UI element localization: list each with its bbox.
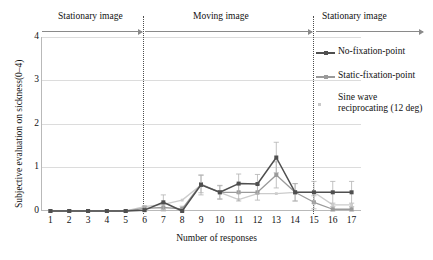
data-point xyxy=(181,199,184,202)
legend-square-icon xyxy=(324,51,328,55)
data-point xyxy=(350,190,354,194)
legend-label: Static-fixation-point xyxy=(338,70,415,80)
legend-label: Sine wave reciprocating (12 deg) xyxy=(338,92,422,114)
legend-label: No-fixation-point xyxy=(338,46,405,56)
data-point xyxy=(48,209,52,213)
data-point xyxy=(350,204,353,207)
data-point xyxy=(86,209,90,213)
data-point xyxy=(331,207,335,211)
series-1 xyxy=(48,142,354,213)
data-point xyxy=(331,190,335,194)
x-tick-17: 17 xyxy=(340,215,364,225)
data-point xyxy=(331,204,334,207)
data-point xyxy=(275,192,278,195)
data-point xyxy=(350,207,354,211)
data-point xyxy=(67,209,71,213)
legend-square-icon xyxy=(324,75,328,79)
x-axis-label: Number of responses xyxy=(0,233,433,243)
data-point xyxy=(274,173,278,177)
data-point xyxy=(218,190,222,194)
data-point xyxy=(312,190,316,194)
legend-label-line2: reciprocating (12 deg) xyxy=(338,103,422,113)
data-point xyxy=(199,183,203,187)
data-point xyxy=(293,190,297,194)
legend-label-line1: Sine wave xyxy=(338,92,377,102)
data-point xyxy=(124,209,128,213)
data-point xyxy=(143,208,147,212)
data-point xyxy=(237,182,241,186)
chart-container: Stationary image Moving image Stationary… xyxy=(0,0,433,260)
data-point xyxy=(274,155,278,159)
data-point xyxy=(180,209,184,213)
legend-dot-icon xyxy=(318,103,321,106)
data-point xyxy=(255,182,259,186)
data-point xyxy=(105,209,109,213)
data-point xyxy=(161,200,165,204)
